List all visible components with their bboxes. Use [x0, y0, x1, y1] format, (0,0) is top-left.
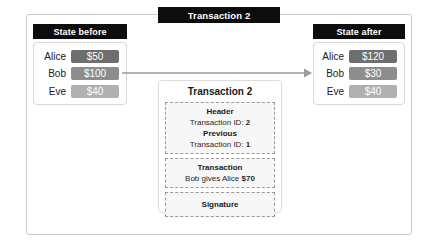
ledger-name: Alice [322, 51, 349, 62]
ledger-amount: $40 [71, 85, 119, 98]
ledger-amount: $100 [71, 67, 119, 80]
ledger-row: Eve $40 [39, 83, 119, 99]
ledger-name: Bob [326, 68, 349, 79]
ledger-amount: $50 [71, 50, 119, 63]
ledger-row: Eve $40 [319, 83, 397, 99]
previous-section-title: Previous [168, 128, 272, 139]
transaction-section: Transaction Bob gives Alice $70 [165, 158, 275, 188]
header-section-title: Header [168, 106, 272, 117]
transaction-body-amount: $70 [242, 174, 255, 183]
state-before-card: Alice $50 Bob $100 Eve $40 [33, 42, 127, 105]
signature-section-title: Signature [202, 199, 239, 210]
transaction-section-title: Transaction [168, 162, 272, 173]
state-after-title-badge: State after [313, 24, 405, 39]
ledger-row: Bob $30 [319, 66, 397, 82]
header-transaction-id-label: Transaction ID: [190, 118, 244, 127]
right-arrow-icon [122, 66, 312, 80]
signature-section: Signature [165, 192, 275, 217]
diagram-title-badge: Transaction 2 [158, 7, 280, 23]
ledger-name: Eve [49, 86, 71, 97]
ledger-row: Bob $100 [39, 66, 119, 82]
transaction-body: Bob gives Alice $70 [168, 173, 272, 184]
transaction-detail-card: Transaction 2 Header Transaction ID: 2 P… [158, 80, 282, 213]
ledger-amount: $30 [349, 67, 397, 80]
ledger-name: Alice [44, 51, 71, 62]
ledger-name: Eve [327, 86, 349, 97]
header-transaction-id: Transaction ID: 2 [168, 117, 272, 128]
transaction-card-title: Transaction 2 [165, 86, 275, 98]
previous-transaction-id-label: Transaction ID: [190, 140, 244, 149]
header-transaction-id-value: 2 [246, 118, 250, 127]
ledger-row: Alice $50 [39, 48, 119, 64]
transaction-body-text: Bob gives Alice [185, 174, 239, 183]
header-section: Header Transaction ID: 2 Previous Transa… [165, 102, 275, 154]
state-after-card: Alice $120 Bob $30 Eve $40 [313, 42, 405, 105]
ledger-amount: $120 [349, 50, 397, 63]
state-before-title-badge: State before [33, 24, 127, 39]
ledger-name: Bob [48, 68, 71, 79]
previous-transaction-id-value: 1 [246, 140, 250, 149]
previous-transaction-id: Transaction ID: 1 [168, 139, 272, 150]
ledger-amount: $40 [349, 85, 397, 98]
ledger-row: Alice $120 [319, 48, 397, 64]
